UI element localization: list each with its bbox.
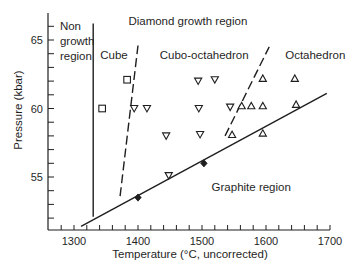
region-label: growth	[60, 35, 95, 47]
triangle-down-marker	[227, 104, 234, 110]
y-tick-label: 55	[31, 171, 43, 183]
triangle-up-marker	[228, 131, 235, 137]
square-marker	[124, 76, 131, 83]
triangle-up-marker	[259, 130, 266, 136]
x-tick-label: 1400	[126, 235, 150, 247]
triangle-up-marker	[238, 102, 245, 108]
x-tick-label: 1700	[318, 235, 342, 247]
x-tick-label: 1300	[62, 235, 86, 247]
y-axis-title: Pressure (kbar)	[12, 70, 24, 149]
region-label: Non	[60, 20, 81, 32]
x-tick-label: 1600	[254, 235, 278, 247]
phase-diagram-chart: 13001400150016001700556065 Nongrowthregi…	[0, 0, 353, 272]
triangle-down-marker	[163, 133, 170, 139]
region-label: Octahedron	[285, 49, 345, 61]
region-label: region	[60, 50, 92, 62]
y-tick-label: 60	[31, 103, 43, 115]
triangle-down-marker	[211, 77, 218, 83]
y-tick-label: 65	[31, 34, 43, 46]
region-label: Graphite region	[212, 181, 291, 193]
triangle-down-marker	[195, 78, 202, 84]
region-label: Diamond growth region	[128, 15, 247, 27]
boundary-line	[120, 45, 138, 196]
region-label: Cubo-octahedron	[160, 49, 249, 61]
triangle-up-marker	[259, 75, 266, 81]
square-marker	[99, 105, 106, 112]
region-label: Cube	[100, 49, 128, 61]
plot-area: 13001400150016001700556065 Nongrowthregi…	[0, 0, 353, 272]
triangle-up-marker	[291, 75, 298, 81]
triangle-down-marker	[195, 106, 202, 112]
triangle-up-marker	[259, 102, 266, 108]
triangle-up-marker	[292, 101, 299, 107]
triangle-down-marker	[143, 106, 150, 112]
triangle-up-marker	[248, 102, 255, 108]
x-tick-label: 1500	[190, 235, 214, 247]
triangle-down-marker	[131, 106, 138, 112]
triangle-down-marker	[196, 132, 203, 138]
x-axis-title: Temperature (°C, uncorrected)	[112, 248, 268, 260]
